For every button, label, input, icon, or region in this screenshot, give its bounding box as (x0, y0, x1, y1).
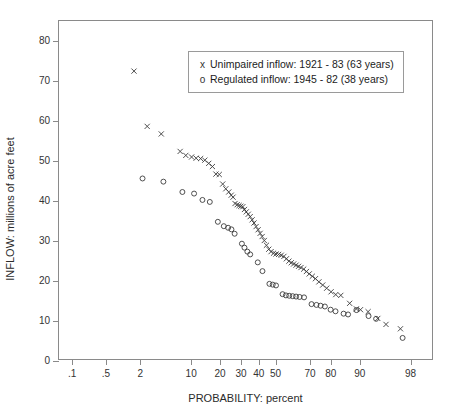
x-tick-label: 70 (304, 369, 315, 379)
series-unimpaired (131, 69, 403, 332)
legend-circle-marker-icon: o (196, 72, 209, 87)
data-point-circle (232, 231, 237, 236)
data-point-circle (260, 269, 265, 274)
x-tick-label: .1 (68, 369, 76, 379)
y-tick-label: 30 (39, 236, 50, 246)
data-point-circle (270, 282, 275, 287)
data-point-circle (267, 281, 272, 286)
legend-x-marker-icon: x (196, 57, 209, 72)
x-tick (259, 359, 260, 365)
x-tick (360, 359, 361, 365)
data-point-circle (309, 302, 314, 307)
data-point-circle (333, 309, 338, 314)
x-tick (411, 359, 412, 365)
x-tick (276, 359, 277, 365)
data-point-circle (140, 176, 145, 181)
legend-entry-regulated: o Regulated inflow: 1945 - 82 (38 years) (196, 72, 394, 87)
data-point-circle (245, 249, 250, 254)
data-point-circle (274, 283, 279, 288)
data-point-circle (280, 292, 285, 297)
legend-entry-unimpaired: x Unimpaired inflow: 1921 - 83 (63 years… (196, 57, 394, 72)
data-point-circle (207, 199, 212, 204)
x-tick (220, 359, 221, 365)
x-tick (331, 359, 332, 365)
x-tick-label: 40 (253, 369, 264, 379)
series-regulated (140, 176, 405, 340)
x-tick-label: 2 (138, 369, 144, 379)
x-tick (140, 359, 141, 365)
data-point-circle (215, 219, 220, 224)
x-tick (191, 359, 192, 365)
x-tick (241, 359, 242, 365)
x-tick-label: 20 (215, 369, 226, 379)
x-tick (310, 359, 311, 365)
x-tick-label: 98 (405, 369, 416, 379)
data-point-circle (200, 197, 205, 202)
x-tick-label: .5 (102, 369, 110, 379)
y-tick-label: 20 (39, 276, 50, 286)
x-tick (72, 359, 73, 365)
y-tick-label: 70 (39, 76, 50, 86)
data-point-circle (328, 307, 333, 312)
data-point-circle (366, 314, 371, 319)
x-tick-label: 90 (354, 369, 365, 379)
x-axis-title: PROBABILITY: percent (58, 392, 433, 404)
legend-label-unimpaired: Unimpaired inflow: 1921 - 83 (63 years) (209, 57, 394, 72)
y-tick (53, 361, 59, 362)
y-tick-label: 0 (44, 356, 50, 366)
x-tick (106, 359, 107, 365)
chart-legend: x Unimpaired inflow: 1921 - 83 (63 years… (188, 51, 404, 93)
y-tick-label: 10 (39, 316, 50, 326)
data-point-circle (192, 191, 197, 196)
y-tick-label: 50 (39, 156, 50, 166)
data-point-circle (161, 179, 166, 184)
y-tick-label: 60 (39, 116, 50, 126)
x-tick-label: 10 (186, 369, 197, 379)
data-point-circle (180, 190, 185, 195)
probability-plot-figure: 01020304050607080 .1.5210203040507080909… (0, 0, 457, 417)
data-point-circle (248, 252, 253, 257)
data-point-circle (400, 335, 405, 340)
x-tick-label: 30 (235, 369, 246, 379)
data-point-circle (255, 260, 260, 265)
x-tick-label: 50 (270, 369, 281, 379)
x-tick-label: 80 (325, 369, 336, 379)
y-tick-label: 80 (39, 36, 50, 46)
plot-frame: 01020304050607080 .1.5210203040507080909… (58, 20, 433, 360)
legend-label-regulated: Regulated inflow: 1945 - 82 (38 years) (209, 72, 388, 87)
y-tick-label: 40 (39, 196, 50, 206)
y-axis-title: INFLOW: millions of acre feet (4, 137, 16, 280)
